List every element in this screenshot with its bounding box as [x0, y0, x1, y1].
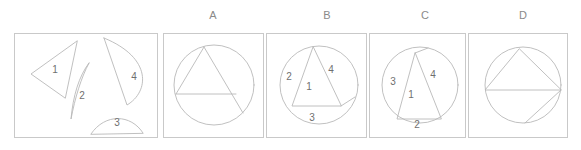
- option-panel-d[interactable]: [468, 33, 568, 138]
- chord-apex-lower-right: [204, 47, 243, 113]
- option-panel-a[interactable]: [163, 33, 264, 138]
- circle-outline: [280, 46, 358, 124]
- inscribed-triangle: [485, 49, 561, 90]
- option-letter-d: D: [513, 8, 533, 22]
- circle-outline: [174, 45, 254, 125]
- region-label-c-4: 4: [426, 69, 440, 80]
- inscribed-triangle: [292, 47, 341, 106]
- option-letter-a: A: [203, 8, 223, 22]
- region-label-b-4: 4: [324, 64, 338, 75]
- pieces-panel: 1 2 3 4: [14, 33, 158, 138]
- option-a-drawing: [164, 34, 265, 139]
- chord-right-to-bottom: [525, 90, 561, 123]
- option-b-drawing: [267, 34, 368, 139]
- piece-label-1: 1: [48, 64, 62, 75]
- piece-label-4: 4: [127, 71, 141, 82]
- chord-extension-top: [415, 48, 428, 53]
- region-label-c-2: 2: [410, 119, 424, 130]
- option-panel-b[interactable]: 2 1 4 3: [266, 33, 367, 138]
- circle-outline: [485, 47, 561, 123]
- puzzle-figure: A B C D 1 2 3 4: [0, 0, 581, 150]
- region-label-b-1: 1: [302, 81, 316, 92]
- pieces-drawing: [15, 34, 159, 139]
- option-panel-c[interactable]: 3 1 4 2: [369, 33, 466, 138]
- option-letter-c: C: [415, 8, 435, 22]
- region-label-b-2: 2: [282, 71, 296, 82]
- option-d-drawing: [469, 34, 569, 139]
- option-letter-b: B: [317, 8, 337, 22]
- region-label-c-1: 1: [404, 89, 418, 100]
- inscribed-triangle: [397, 53, 441, 119]
- piece-label-3: 3: [110, 117, 124, 128]
- region-label-b-3: 3: [305, 112, 319, 123]
- chord-apex-left: [176, 47, 204, 94]
- piece-label-2: 2: [75, 90, 89, 101]
- region-label-c-3: 3: [386, 76, 400, 87]
